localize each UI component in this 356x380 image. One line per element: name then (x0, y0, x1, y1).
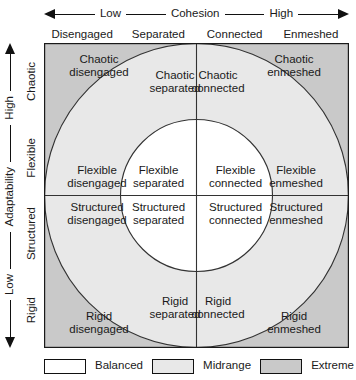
column-header-enmeshed: Enmeshed (273, 26, 349, 42)
axis-rule (10, 125, 11, 162)
legend-label-midrange: Midrange (194, 360, 251, 372)
cohesion-high-label: High (264, 8, 298, 20)
row-header-rigid: Rigid (22, 272, 42, 348)
row-header-label: Structured (26, 207, 38, 260)
row-header-label: Flexible (26, 138, 38, 178)
axis-rule (55, 14, 95, 15)
adaptability-high-label: High (4, 91, 16, 125)
legend-item-extreme: Extreme (260, 359, 354, 374)
column-header-connected: Connected (197, 26, 273, 42)
legend-item-midrange: Midrange (152, 359, 251, 374)
arrow-up-icon (5, 43, 15, 54)
axis-rule (298, 14, 338, 15)
legend-label-extreme: Extreme (302, 360, 354, 372)
cohesion-axis: Low Cohesion High (44, 6, 349, 22)
circumplex-model-figure: Low Cohesion High Disengaged Separated C… (0, 0, 356, 380)
axis-rule (225, 14, 265, 15)
column-header-separated: Separated (120, 26, 196, 42)
legend-swatch-extreme (260, 359, 302, 374)
column-headers: Disengaged Separated Connected Enmeshed (44, 26, 349, 42)
arrow-right-icon (338, 9, 349, 19)
legend-label-balanced: Balanced (86, 360, 143, 372)
adaptability-low-label: Low (4, 269, 16, 300)
adaptability-axis: High Adaptability Low (2, 43, 18, 348)
legend-swatch-midrange (152, 359, 194, 374)
row-header-label: Rigid (26, 297, 38, 323)
circumplex-plot: Chaotic disengaged Chaotic separated Cha… (44, 43, 349, 348)
cohesion-low-label: Low (95, 8, 126, 20)
legend: Balanced Midrange Extreme (44, 356, 354, 376)
row-header-label: Chaotic (26, 62, 38, 101)
row-header-flexible: Flexible (22, 119, 42, 195)
legend-swatch-balanced (44, 359, 86, 374)
row-header-chaotic: Chaotic (22, 43, 42, 119)
cohesion-axis-title: Cohesion (166, 8, 225, 20)
axis-rule (10, 300, 11, 337)
axis-rule (10, 232, 11, 269)
circumplex-svg (44, 43, 349, 348)
arrow-left-icon (44, 9, 55, 19)
axis-rule (126, 14, 166, 15)
row-header-structured: Structured (22, 196, 42, 272)
axis-rule (10, 54, 11, 91)
legend-item-balanced: Balanced (44, 359, 143, 374)
arrow-down-icon (5, 337, 15, 348)
row-headers: Chaotic Flexible Structured Rigid (22, 43, 42, 348)
column-header-disengaged: Disengaged (44, 26, 120, 42)
adaptability-axis-title: Adaptability (4, 162, 16, 231)
